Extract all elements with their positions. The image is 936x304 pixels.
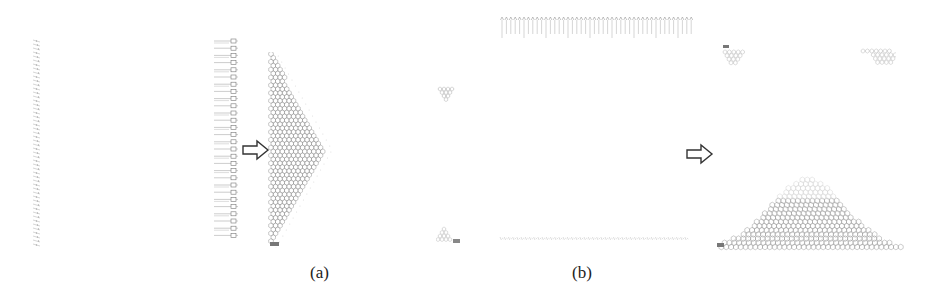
panel-a-corner-top <box>437 86 457 104</box>
right-arrow-icon <box>242 139 270 161</box>
panel-b-top-right-lattice <box>860 48 896 72</box>
panel-a-source-column <box>30 38 44 248</box>
caption-b: (b) <box>572 263 592 283</box>
panel-b-bell-lattice <box>716 175 906 251</box>
panel-a-triangle-lattice <box>268 52 358 248</box>
panel-a-stacked-elements <box>213 38 239 242</box>
panel-b-top-left-lattice <box>722 44 752 70</box>
panel-b-bottom-row <box>498 234 698 244</box>
panel-a-label-dw <box>270 241 282 247</box>
transform-arrow-a <box>242 139 270 161</box>
right-arrow-icon <box>686 143 714 165</box>
panel-a-corner-bottom <box>436 226 462 246</box>
panel-b-top-row <box>498 14 698 40</box>
transform-arrow-b <box>686 143 714 165</box>
caption-a: (a) <box>310 263 329 283</box>
